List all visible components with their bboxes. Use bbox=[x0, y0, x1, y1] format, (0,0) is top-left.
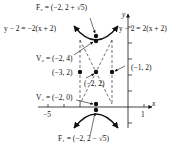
label-pointers bbox=[74, 18, 125, 136]
focus-lower-point bbox=[94, 108, 98, 112]
asymptote-right-label: y − 2 = 2(x + 2) bbox=[119, 25, 167, 33]
y-axis-label: y bbox=[122, 11, 125, 19]
point-right bbox=[110, 70, 114, 74]
points bbox=[78, 34, 114, 112]
center-label: (−2, 2) bbox=[84, 80, 104, 88]
hyperbola-diagram bbox=[0, 0, 173, 152]
x-tick-label-1: 1 bbox=[141, 111, 145, 119]
point-right-label: (−1, 2) bbox=[131, 64, 151, 72]
asymptote-left-label: y − 2 = −2(x + 2) bbox=[4, 25, 56, 33]
x-axis-label: x bbox=[152, 100, 155, 108]
focus-upper-label: F₂ = (−2, 2 + √5) bbox=[36, 4, 87, 12]
vertex-lower-point bbox=[94, 102, 98, 106]
vertex-upper-point bbox=[94, 39, 98, 43]
center-point bbox=[94, 70, 98, 74]
hyperbola-lower-branch bbox=[74, 114, 118, 128]
vertex-upper-label: V₂ = (−2, 4) bbox=[36, 55, 73, 63]
focus-lower-label: F₁ = (−2, 2 − √5) bbox=[58, 135, 109, 143]
point-left-label: (−3, 2) bbox=[52, 69, 72, 77]
x-tick-label-neg5: −5 bbox=[43, 111, 51, 119]
vertex-lower-label: V₁ = (−2, 0) bbox=[36, 94, 73, 102]
focus-upper-point bbox=[94, 34, 98, 38]
point-left bbox=[78, 70, 82, 74]
